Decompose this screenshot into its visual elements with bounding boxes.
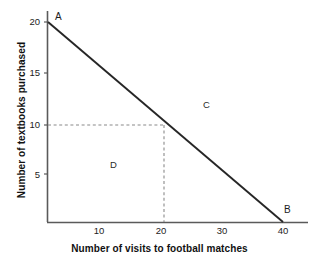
- point-label-b: B: [284, 205, 291, 215]
- y-axis-title-wrapper: Number of textbooks purchased: [16, 25, 32, 215]
- plot-area: [0, 0, 319, 261]
- chart-figure: 20 15 10 5 10 20 30 40 A B C D Number of…: [0, 0, 319, 261]
- y-axis-title: Number of textbooks purchased: [16, 25, 27, 215]
- x-axis-title: Number of visits to football matches: [0, 243, 319, 254]
- region-label-d: D: [110, 160, 117, 170]
- x-tick-label-40: 40: [268, 226, 298, 236]
- region-label-c: C: [203, 100, 210, 110]
- x-tick-label-10: 10: [84, 226, 114, 236]
- budget-line: [48, 22, 283, 222]
- x-tick-label-30: 30: [207, 226, 237, 236]
- x-tick-label-20: 20: [146, 226, 176, 236]
- point-label-a: A: [55, 12, 62, 22]
